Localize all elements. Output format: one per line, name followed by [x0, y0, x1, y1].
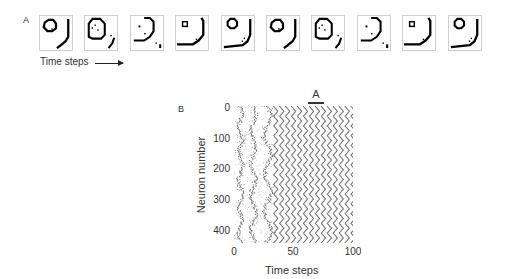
y-tick: 400	[208, 225, 230, 236]
raster-plot	[234, 106, 353, 243]
frame-image	[176, 16, 208, 50]
y-tick: 100	[208, 133, 230, 144]
frame-6	[266, 15, 300, 51]
frame-10	[448, 15, 482, 51]
frame-image	[85, 16, 117, 50]
y-tick: 200	[208, 163, 230, 174]
frame-image	[40, 16, 72, 50]
time-arrow-icon	[95, 63, 123, 64]
frame-image	[449, 16, 481, 50]
panel-b-label: B	[178, 104, 184, 114]
frame-7	[311, 15, 345, 51]
frame-image	[403, 16, 435, 50]
y-tick: 300	[208, 194, 230, 205]
panel-a-label: A	[23, 15, 29, 25]
y-tick: 0	[208, 102, 230, 113]
x-tick: 100	[338, 246, 368, 257]
time-steps-caption: Time steps	[40, 56, 89, 67]
x-tick: 50	[278, 246, 308, 257]
y-axis-label: Neuron number	[195, 135, 207, 215]
frame-image	[222, 16, 254, 50]
frame-9	[402, 15, 436, 51]
raster-svg	[234, 106, 353, 243]
frame-4	[175, 15, 209, 51]
annotation-a-label: A	[306, 88, 326, 100]
frame-8	[357, 15, 391, 51]
frame-1	[39, 15, 73, 51]
frame-image	[358, 16, 390, 50]
frame-3	[130, 15, 164, 51]
x-tick: 0	[219, 246, 249, 257]
frame-image	[267, 16, 299, 50]
frame-image	[131, 16, 163, 50]
frame-image	[312, 16, 344, 50]
frame-5	[221, 15, 255, 51]
annotation-a-bar	[308, 102, 324, 104]
frame-2	[84, 15, 118, 51]
x-axis-label: Time steps	[265, 264, 318, 276]
